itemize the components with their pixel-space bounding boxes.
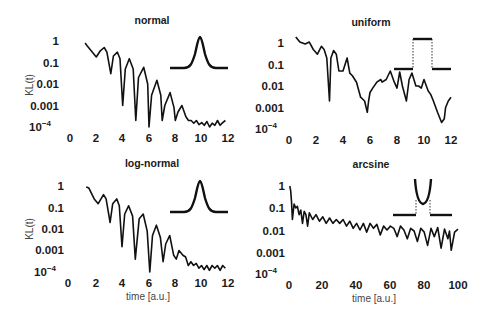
- y-tick: 0.01: [263, 225, 286, 237]
- y-tick: 0.01: [42, 223, 65, 235]
- y-axis-label: KL(t): [24, 74, 35, 96]
- x-tick: 6: [146, 132, 152, 144]
- panel-log-normal: log-normal KL(t) 1 0.1 0.01 0.001 10−4 0…: [24, 157, 234, 302]
- x-tick: 12: [222, 132, 235, 144]
- x-tick: 8: [394, 134, 401, 146]
- y-tick: 0.001: [255, 102, 284, 114]
- panel-title: log-normal: [125, 157, 179, 169]
- x-tick: 100: [448, 279, 467, 291]
- panel-arcsine: arcsine 1 0.1 0.01 0.001 10−4 0 20 40 60…: [255, 158, 468, 304]
- y-tick-exp-base: 10−4: [255, 266, 277, 280]
- y-tick: 1: [278, 37, 285, 49]
- x-tick: 10: [418, 134, 431, 146]
- kl-curve: [296, 37, 451, 123]
- arcsine-inset-icon: [393, 179, 452, 215]
- x-tick-labels: 0 2 4 6 8 10 12: [67, 132, 235, 144]
- x-tick: 60: [384, 279, 397, 291]
- x-tick: 6: [367, 134, 373, 146]
- y-tick: 0.001: [30, 100, 59, 112]
- panel-normal: normal KL(t) 1 0.1 0.01 0.001 10−4 0 2 4…: [24, 14, 234, 144]
- panel-title: arcsine: [353, 158, 390, 170]
- x-tick: 0: [67, 132, 73, 144]
- x-tick: 4: [119, 277, 126, 289]
- y-tick: 0.1: [48, 202, 65, 214]
- x-tick: 80: [418, 279, 431, 291]
- x-tick: 2: [93, 277, 99, 289]
- y-tick-labels: 1 0.1 0.01 0.001 10−4: [34, 180, 65, 278]
- uniform-inset-icon: [394, 39, 451, 69]
- x-tick-labels: 0 20 40 60 80 100: [286, 279, 468, 291]
- x-tick: 2: [313, 134, 319, 146]
- kl-curve: [290, 186, 458, 250]
- y-tick: 0.1: [268, 59, 285, 71]
- y-tick: 0.1: [43, 57, 60, 69]
- panel-uniform: uniform 1 0.1 0.01 0.001 10−4 0 2 4 6 8 …: [255, 16, 457, 146]
- x-tick: 0: [65, 277, 71, 289]
- y-tick-exp-base: 10−4: [29, 119, 51, 133]
- x-tick: 40: [350, 279, 363, 291]
- x-tick: 0: [286, 279, 292, 291]
- x-tick: 10: [195, 277, 208, 289]
- figure: normal KL(t) 1 0.1 0.01 0.001 10−4 0 2 4…: [0, 0, 484, 319]
- x-tick: 4: [340, 134, 347, 146]
- x-tick: 12: [222, 277, 235, 289]
- y-tick-exp-base: 10−4: [34, 264, 56, 278]
- y-tick: 0.01: [37, 78, 60, 90]
- x-tick: 8: [172, 277, 179, 289]
- x-tick: 4: [119, 132, 126, 144]
- x-tick: 2: [93, 132, 99, 144]
- gaussian-inset-icon: [170, 37, 228, 68]
- x-tick: 20: [316, 279, 329, 291]
- x-axis-label: time [a.u.]: [126, 291, 170, 302]
- y-tick-labels: 1 0.1 0.01 0.001 10−4: [255, 37, 285, 135]
- y-tick: 1: [279, 180, 286, 192]
- y-tick-exp-base: 10−4: [255, 121, 277, 135]
- y-tick: 0.001: [35, 244, 64, 256]
- x-tick-labels: 0 2 4 6 8 10 12: [65, 277, 235, 289]
- y-tick-labels: 1 0.1 0.01 0.001 10−4: [255, 180, 286, 280]
- y-tick: 0.1: [269, 202, 286, 214]
- gaussian-inset-icon: [170, 181, 228, 212]
- x-tick: 10: [195, 132, 208, 144]
- y-tick: 0.001: [256, 247, 285, 259]
- y-axis-label: KL(t): [24, 218, 35, 240]
- panel-title: normal: [134, 14, 169, 26]
- x-tick: 0: [286, 134, 292, 146]
- x-tick: 8: [172, 132, 179, 144]
- x-tick-labels: 0 2 4 6 8 10 12: [286, 134, 458, 146]
- y-tick: 1: [58, 180, 65, 192]
- x-tick: 12: [445, 134, 458, 146]
- y-tick: 0.01: [262, 80, 285, 92]
- y-tick: 1: [53, 35, 60, 47]
- panel-title: uniform: [351, 16, 390, 28]
- x-tick: 6: [146, 277, 152, 289]
- x-axis-label: time [a.u.]: [352, 293, 396, 304]
